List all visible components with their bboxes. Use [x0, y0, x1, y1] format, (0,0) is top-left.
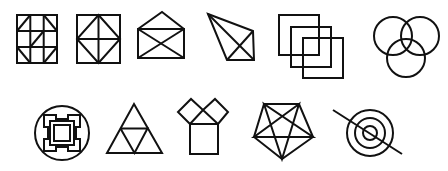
- square-diamond-cross-icon: [77, 15, 120, 63]
- circle-knot-icon: [35, 106, 89, 160]
- overlapping-squares-icon: [279, 15, 343, 78]
- open-envelope-icon: [138, 12, 184, 58]
- pythagoras-squares-icon: [178, 99, 228, 154]
- crossed-target-icon: [333, 110, 402, 156]
- kite-quadrilateral-icon: [208, 14, 254, 60]
- pentagon-pentagram-icon: [254, 104, 313, 159]
- grid-square-diagonals-icon: [17, 15, 57, 63]
- geometric-figures-canvas: [0, 0, 448, 171]
- three-circles-icon: [374, 17, 439, 77]
- subdivided-triangle-icon: [107, 104, 162, 153]
